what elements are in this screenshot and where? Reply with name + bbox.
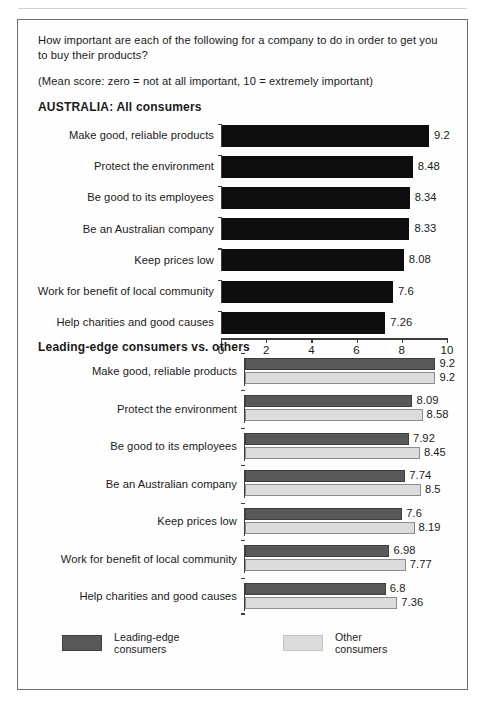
bar-value-label: 8.34 <box>415 192 437 203</box>
page-top-rule <box>18 8 467 9</box>
category-tick <box>241 390 245 391</box>
bar-slot: 8.09 <box>245 395 452 407</box>
bar-slot: 8.45 <box>245 447 452 459</box>
chart-bar-row: Work for benefit of local community7.6 <box>18 276 467 307</box>
bar-track: 8.098.58 <box>244 395 452 423</box>
axis-tick <box>402 338 403 343</box>
figure-question: How important are each of the following … <box>38 33 447 63</box>
category-tick <box>241 503 245 504</box>
bar-value-label: 9.2 <box>439 358 455 369</box>
bar-track: 8.33 <box>221 218 447 240</box>
bar-slot: 9.2 <box>245 372 452 384</box>
axis-tick-label: 6 <box>353 344 359 356</box>
bar-value-label: 8.5 <box>425 485 441 496</box>
category-tick <box>241 353 245 354</box>
chart-legend: Leading-edge consumersOther consumers <box>62 631 467 655</box>
legend-item: Other consumers <box>283 631 413 655</box>
chart-bar-row: Keep prices low8.08 <box>18 245 467 276</box>
figure-container: How important are each of the following … <box>17 19 468 690</box>
category-label: Work for benefit of local community <box>18 553 244 566</box>
bar-value-label: 8.58 <box>427 410 449 421</box>
bar-slot: 8.5 <box>245 484 452 496</box>
chart-bar-row: Help charities and good causes7.26 <box>18 307 467 338</box>
bar-track: 8.48 <box>221 156 447 178</box>
bar-slot: 7.36 <box>245 597 452 609</box>
bar-track: 7.6 <box>221 281 447 303</box>
bar-value-label: 9.2 <box>434 130 450 141</box>
bar-value-label: 6.98 <box>393 546 415 557</box>
bar-track: 7.928.45 <box>244 433 452 461</box>
bar-value-label: 7.74 <box>409 471 431 482</box>
chart-bar-group: Be good to its employees7.928.45 <box>18 433 467 461</box>
bar-slot: 6.98 <box>245 545 452 557</box>
bar-value-label: 7.77 <box>410 560 432 571</box>
figure-scale-note: (Mean score: zero = not at all important… <box>38 74 447 89</box>
bar-value-label: 6.8 <box>390 583 406 594</box>
axis-tick <box>221 338 222 343</box>
bar-slot: 6.8 <box>245 583 452 595</box>
category-label: Keep prices low <box>18 515 244 528</box>
bar-track: 9.2 <box>221 125 447 147</box>
category-label: Keep prices low <box>18 254 221 267</box>
bar-track: 8.34 <box>221 187 447 209</box>
bar-track: 6.987.77 <box>244 545 452 573</box>
bar-value-label: 7.92 <box>413 433 435 444</box>
legend-label: Leading-edge consumers <box>114 631 229 655</box>
chart-bar-group: Help charities and good causes6.87.36 <box>18 583 467 611</box>
bar-slot: 7.77 <box>245 559 452 571</box>
axis-tick <box>311 338 312 343</box>
axis-tick-label: 8 <box>399 344 405 356</box>
section-title-all-consumers: AUSTRALIA: All consumers <box>38 100 447 114</box>
axis-tick-label: 0 <box>218 344 224 356</box>
category-label: Help charities and good causes <box>18 590 244 603</box>
chart-all-consumers-axis: 0246810 <box>221 338 447 339</box>
legend-swatch <box>62 635 102 651</box>
legend-label: Other consumers <box>335 631 413 655</box>
chart-bar-group: Protect the environment8.098.58 <box>18 395 467 423</box>
chart-bar-group: Work for benefit of local community6.987… <box>18 545 467 573</box>
bar-value-label: 8.19 <box>419 522 441 533</box>
category-label: Be an Australian company <box>18 478 244 491</box>
bar-slot: 8.58 <box>245 409 452 421</box>
bar-value-label: 7.26 <box>390 317 412 328</box>
bar-value-label: 7.36 <box>401 597 423 608</box>
legend-item: Leading-edge consumers <box>62 631 229 655</box>
category-label: Help charities and good causes <box>18 316 221 329</box>
bar-slot: 7.6 <box>245 508 452 520</box>
axis-tick <box>357 338 358 343</box>
bar-value-label: 8.33 <box>414 224 436 235</box>
chart-bar-row: Make good, reliable products9.2 <box>18 120 467 151</box>
category-label: Make good, reliable products <box>18 129 221 142</box>
axis-line <box>221 338 447 339</box>
chart-bar-group: Keep prices low7.68.19 <box>18 508 467 536</box>
chart-bar-row: Protect the environment8.48 <box>18 151 467 182</box>
axis-tick-label: 4 <box>308 344 314 356</box>
axis-end-tick <box>241 613 245 614</box>
axis-tick-label: 10 <box>441 344 454 356</box>
bar-value-label: 8.08 <box>409 255 431 266</box>
bar-value-label: 8.45 <box>424 447 446 458</box>
chart-all-consumers-rows: Make good, reliable products9.2Protect t… <box>18 120 467 338</box>
bar-value-label: 9.2 <box>439 372 455 383</box>
bar-track: 6.87.36 <box>244 583 452 611</box>
axis-tick <box>266 338 267 343</box>
category-label: Work for benefit of local community <box>18 285 221 298</box>
category-label: Be good to its employees <box>18 191 221 204</box>
chart-bar-row: Be good to its employees8.34 <box>18 182 467 213</box>
bar-slot: 7.92 <box>245 433 452 445</box>
category-label: Protect the environment <box>18 160 221 173</box>
category-label: Protect the environment <box>18 403 244 416</box>
axis-tick <box>447 338 448 343</box>
bar-slot: 9.2 <box>245 358 452 370</box>
bar-value-label: 8.09 <box>416 396 438 407</box>
bar-track: 8.08 <box>221 249 447 271</box>
category-label: Be an Australian company <box>18 223 221 236</box>
legend-swatch <box>283 635 323 651</box>
chart-bar-group: Be an Australian company7.748.5 <box>18 470 467 498</box>
category-label: Be good to its employees <box>18 440 244 453</box>
chart-leading-edge-vs-others: Make good, reliable products9.29.2Protec… <box>18 358 467 611</box>
category-tick <box>241 465 245 466</box>
chart-bar-group: Make good, reliable products9.29.2 <box>18 358 467 386</box>
bar-slot: 7.74 <box>245 470 452 482</box>
chart-all-consumers: Make good, reliable products9.2Protect t… <box>18 120 467 340</box>
